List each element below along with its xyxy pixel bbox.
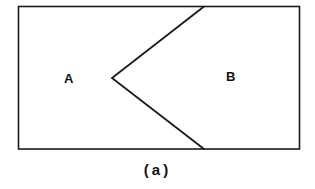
diagram-figure: A B (a) bbox=[0, 0, 315, 189]
chevron-boundary-line bbox=[112, 7, 204, 150]
region-label-b: B bbox=[226, 69, 235, 84]
figure-caption: (a) bbox=[0, 161, 315, 178]
region-label-a: A bbox=[64, 71, 73, 86]
outer-rectangle bbox=[19, 7, 300, 150]
